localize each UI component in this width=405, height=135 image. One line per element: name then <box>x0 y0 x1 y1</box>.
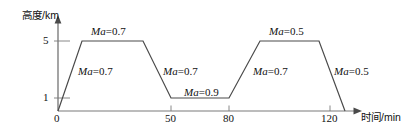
x-tick-label-80: 80 <box>223 113 234 124</box>
ma-symbol: Ma <box>334 65 349 77</box>
annotation-low-cruise-value: 0.9 <box>205 86 219 98</box>
ma-symbol: Ma <box>253 65 268 77</box>
annotation-climb1-value: 0.7 <box>99 65 113 77</box>
x-axis-title: 时间/min <box>361 112 401 123</box>
annotation-cruise2-value: 0.5 <box>290 25 304 37</box>
annotation-climb2: Ma=0.7 <box>253 66 288 77</box>
x-tick-label-120: 120 <box>321 113 338 124</box>
ma-symbol: Ma <box>269 25 284 37</box>
annotation-cruise2: Ma=0.5 <box>269 26 304 37</box>
x-tick-label-0: 0 <box>54 113 60 124</box>
ma-symbol: Ma <box>78 65 93 77</box>
x-axis <box>58 106 362 115</box>
annotation-climb1: Ma=0.7 <box>78 66 113 77</box>
annotation-climb2-value: 0.7 <box>274 65 288 77</box>
annotation-cruise1-value: 0.7 <box>112 25 126 37</box>
annotation-cruise1: Ma=0.7 <box>91 26 126 37</box>
y-axis <box>54 15 70 111</box>
ma-symbol: Ma <box>163 65 178 77</box>
flight-profile-chart: 高度/km 时间/min 5 1 0 50 80 120 Ma=0.7 Ma=0… <box>0 0 405 135</box>
annotation-descent2-value: 0.5 <box>355 65 369 77</box>
annotation-descent1-value: 0.7 <box>184 65 198 77</box>
ma-symbol: Ma <box>91 25 106 37</box>
annotation-descent1: Ma=0.7 <box>163 66 198 77</box>
y-tick-label-1: 1 <box>43 92 49 103</box>
annotation-descent2: Ma=0.5 <box>334 66 369 77</box>
annotation-low-cruise: Ma=0.9 <box>184 87 219 98</box>
x-tick-label-50: 50 <box>165 113 176 124</box>
ma-symbol: Ma <box>184 86 199 98</box>
y-tick-label-5: 5 <box>43 35 49 46</box>
y-axis-title: 高度/km <box>22 10 59 21</box>
